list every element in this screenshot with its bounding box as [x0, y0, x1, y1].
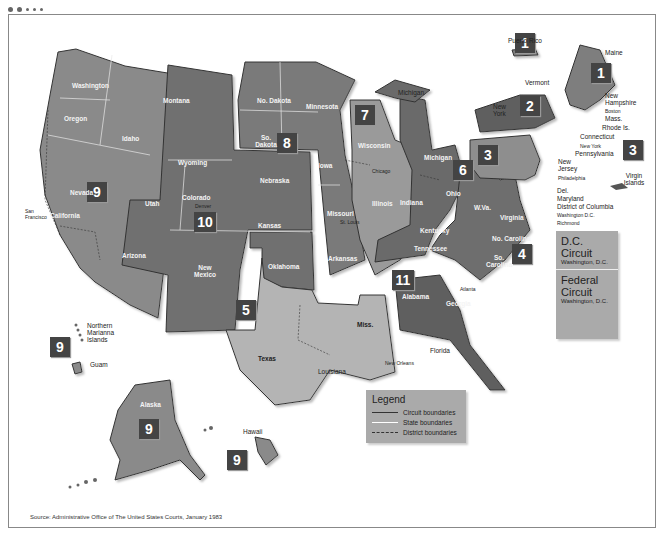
circuit-badge-10: 10	[194, 212, 216, 232]
callout-label: St. Louis	[340, 219, 359, 225]
callout-label: New Hampshire	[605, 92, 645, 106]
state-label: Washington	[72, 82, 109, 89]
state-label: New Mexico	[190, 264, 220, 278]
circuit-badge-11: 11	[392, 270, 414, 290]
circuit-badge-4: 4	[512, 244, 532, 264]
circuit-badge-7: 7	[355, 105, 375, 125]
state-label: Tennessee	[414, 245, 447, 252]
state-label: Virginia	[500, 214, 524, 221]
state-label: Wisconsin	[358, 142, 390, 149]
circuit-badge-8: 8	[277, 133, 297, 153]
callout-label: Boston	[605, 108, 621, 114]
legend-title: Legend	[372, 394, 460, 405]
hawaii	[255, 437, 278, 465]
callout-label: Atlanta	[460, 286, 476, 292]
callout-label: New Orleans	[385, 360, 414, 366]
callout-label: New York	[580, 143, 601, 149]
state-label: W.Va.	[474, 204, 491, 211]
federal-circuit-title: Federal	[561, 274, 613, 286]
legend-item: District boundaries	[372, 427, 460, 437]
federal-circuit-city: Washington, D.C.	[561, 298, 613, 304]
state-label: Oklahoma	[268, 263, 299, 270]
state-label: Indiana	[400, 199, 423, 206]
callout-label: Michigan	[398, 89, 424, 96]
callout-label: Philadelphia	[558, 175, 585, 181]
state-label: Wyoming	[178, 159, 207, 166]
legend-item: State boundaries	[372, 417, 460, 427]
state-label: Kansas	[258, 222, 281, 229]
state-label: Alabama	[402, 293, 429, 300]
state-label: Miss.	[357, 321, 373, 328]
circuit-2-region	[475, 95, 555, 132]
federal-circuit: Federal Circuit Washington, D.C.	[556, 270, 618, 308]
callout-label: Louisiana	[318, 368, 346, 375]
dc-circuit-title2: Circuit	[561, 247, 613, 259]
state-label: No. Carolina	[492, 235, 530, 242]
dc-circuit: D.C. Circuit Washington, D.C.	[556, 231, 618, 269]
callout-label: Maine	[605, 49, 623, 56]
state-label: Ohio	[446, 190, 461, 197]
legend-label: State boundaries	[403, 419, 452, 426]
guam	[72, 362, 82, 374]
circuit-line-icon	[372, 412, 398, 413]
source-note: Source: Administrative Office of The Uni…	[30, 514, 222, 520]
callout-label: San Francisco	[25, 208, 43, 220]
state-label: Idaho	[122, 135, 139, 142]
state-label: Minnesota	[306, 103, 338, 110]
callout-label: Virgin Islands	[622, 172, 646, 186]
state-label: Nevada	[70, 189, 93, 196]
circuit-badge-6: 6	[453, 160, 473, 180]
callout-label: Florida	[430, 347, 450, 354]
callout-label: New Jersey	[558, 158, 582, 172]
callout-label: Rhode Is.	[602, 124, 630, 131]
callout-label: Puerto Rico	[508, 37, 542, 44]
state-label: Arizona	[122, 252, 146, 259]
callout-label: Richmond	[557, 220, 580, 226]
circuit-badge-9-guam: 9	[50, 337, 70, 357]
dc-circuit-title: D.C.	[561, 235, 613, 247]
federal-circuit-title2: Circuit	[561, 286, 613, 298]
legend-item: Circuit boundaries	[372, 407, 460, 417]
callout-label: Pennsylvania	[575, 150, 614, 157]
callout-label: District of Columbia	[557, 203, 613, 210]
state-label: No. Dakota	[257, 97, 291, 104]
state-label: Georgia	[446, 300, 471, 307]
state-label: So. Dakota	[252, 134, 280, 148]
circuit-badge-5: 5	[236, 300, 256, 320]
state-label: California	[50, 212, 80, 219]
state-label: Oregon	[64, 115, 87, 122]
callout-label: Del.	[557, 187, 569, 194]
callout-label: Hawaii	[243, 428, 263, 435]
legend-label: District boundaries	[403, 429, 457, 436]
state-label: Kentucky	[420, 227, 449, 234]
callout-label: New York	[493, 103, 513, 117]
state-label: Montana	[163, 97, 190, 104]
state-label: Missouri	[327, 210, 354, 217]
state-label: Michigan	[424, 154, 452, 161]
dc-circuit-city: Washington, D.C.	[561, 259, 613, 265]
callout-label: Mass.	[605, 115, 622, 122]
callout-label: Denver	[195, 203, 211, 209]
state-label: Iowa	[318, 162, 332, 169]
state-label: Texas	[258, 355, 276, 362]
state-label: Nebraska	[260, 177, 289, 184]
state-label: Arkansas	[328, 255, 357, 262]
callout-label: Guam	[90, 361, 108, 368]
circuit-badge-3-vi: 3	[623, 140, 643, 160]
circuit-badge-2: 2	[520, 96, 540, 116]
callout-label: Chicago	[372, 168, 390, 174]
state-label: Illinois	[372, 200, 393, 207]
state-label: Utah	[145, 200, 159, 207]
state-label: Colorado	[182, 194, 211, 201]
circuit-badge-3: 3	[478, 145, 498, 165]
dc-federal-circuit-panel: D.C. Circuit Washington, D.C. Federal Ci…	[556, 231, 618, 339]
callout-label: Northern Marianna Islands	[87, 322, 121, 343]
callout-label: Vermont	[525, 79, 549, 86]
legend: Legend Circuit boundaries State boundari…	[366, 390, 466, 443]
circuit-badge-9-hawaii: 9	[227, 450, 247, 470]
state-label: Alaska	[140, 401, 161, 408]
callout-label: Connecticut	[580, 133, 614, 140]
callout-label: Maryland	[557, 195, 584, 202]
state-label: So. Carolina	[484, 254, 514, 268]
callout-label: Washington D.C.	[557, 212, 595, 218]
